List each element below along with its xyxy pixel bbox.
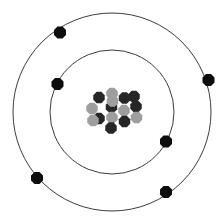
nucleon-neutron-9: [106, 112, 117, 123]
nucleon-proton-2: [93, 92, 104, 103]
nucleon-proton-10: [119, 116, 130, 127]
nucleon-neutron-6: [86, 103, 97, 114]
atom-diagram-canvas: [0, 0, 224, 224]
nucleon-neutron-15: [107, 95, 118, 106]
electron-outer-electron-4: [160, 186, 172, 198]
electron-inner-electron-2: [160, 135, 172, 147]
electron-outer-electron-1: [54, 26, 66, 38]
nucleon-neutron-7: [118, 105, 129, 116]
electron-outer-electron-3: [31, 172, 43, 184]
nucleus-group: [86, 88, 142, 134]
nucleon-proton-13: [105, 122, 116, 133]
electron-outer-electron-2: [202, 74, 214, 86]
nucleon-proton-5: [130, 101, 141, 112]
nucleon-proton-14: [128, 91, 139, 102]
electron-inner-electron-1: [51, 78, 63, 90]
bohr-atomic-model-figure: [0, 0, 224, 224]
nucleon-neutron-12: [87, 115, 98, 126]
nucleon-neutron-11: [131, 112, 142, 123]
